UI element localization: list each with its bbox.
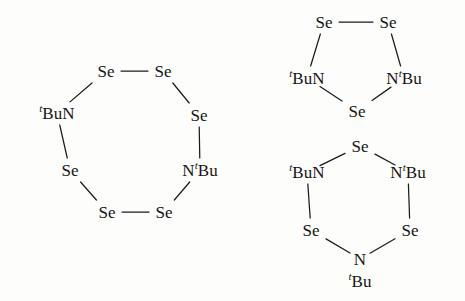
atom-label-se-se3: Se <box>302 222 319 239</box>
chemical-structures-figure: SeSeSeNtBuSeSeSetBuNSeSeNtBuSetBuNSeNtBu… <box>0 0 465 301</box>
bond-n2-se1 <box>311 34 321 66</box>
atom-label-se-se3: Se <box>348 103 365 120</box>
atom-label-ntbu-n1: NtBu <box>390 163 426 182</box>
atom-label-se-se4: Se <box>155 204 172 221</box>
butyl-group: Bu <box>402 69 422 88</box>
butyl-group: Bu <box>352 272 372 291</box>
atom-label-se-se5: Se <box>98 204 115 221</box>
bond-se5-se6 <box>81 182 97 200</box>
bond-n1-se3 <box>372 87 391 100</box>
atom-label-se-se1: Se <box>351 138 368 155</box>
nitrogen-symbol: N <box>390 163 402 182</box>
tert-superscript: t <box>399 67 402 79</box>
bond-se6-n2 <box>60 125 68 158</box>
butyl-group: Bu <box>198 161 218 180</box>
bond-n2-se3 <box>326 239 350 253</box>
tert-superscript: t <box>289 161 292 173</box>
atom-label-se-se6: Se <box>61 162 78 179</box>
bond-n1-se2 <box>408 184 409 218</box>
bond-se3-n3 <box>308 184 310 218</box>
tert-superscript: t <box>195 159 198 171</box>
atom-label-se-se1: Se <box>97 63 114 80</box>
butyl-group: Bu <box>406 163 426 182</box>
tert-superscript: t <box>403 161 406 173</box>
atom-label-butyl-below-n2: tBu <box>348 272 371 291</box>
tert-superscript: t <box>289 67 292 79</box>
atom-label-tbun-n2: tBuN <box>39 104 74 123</box>
bond-se3-n2 <box>320 87 342 102</box>
bond-se2-n2 <box>370 239 395 254</box>
bond-layer <box>0 0 465 301</box>
tert-superscript: t <box>348 270 351 282</box>
nitrogen-symbol: N <box>182 161 194 180</box>
atom-label-ntbu-n1: NtBu <box>386 69 422 88</box>
atom-label-ntbu-n1: NtBu <box>182 161 218 180</box>
butyl-nitrogen-group: BuN <box>42 104 74 123</box>
bond-n2-se1 <box>70 83 92 102</box>
bond-se2-se3 <box>173 83 189 103</box>
atom-label-se-se3: Se <box>190 107 207 124</box>
tert-superscript: t <box>39 102 42 114</box>
butyl-nitrogen-group: BuN <box>292 69 324 88</box>
atom-label-se-se2: Se <box>401 222 418 239</box>
atom-label-se-se1: Se <box>315 14 332 31</box>
bond-se2-n1 <box>391 34 400 66</box>
bond-n1-se4 <box>174 182 189 200</box>
atom-label-se-se2: Se <box>379 14 396 31</box>
bond-se3-n1 <box>199 127 200 158</box>
atom-label-tbun-n2: tBuN <box>289 69 324 88</box>
atom-label-nbelowbu-n2: N <box>354 251 366 268</box>
nitrogen-symbol: N <box>386 69 398 88</box>
butyl-nitrogen-group: BuN <box>292 163 324 182</box>
atom-label-se-se2: Se <box>154 63 171 80</box>
atom-label-tbun-n3: tBuN <box>289 163 324 182</box>
